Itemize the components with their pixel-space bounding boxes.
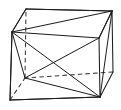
cube-line-drawing [0,0,121,110]
cube-figure [0,0,121,110]
